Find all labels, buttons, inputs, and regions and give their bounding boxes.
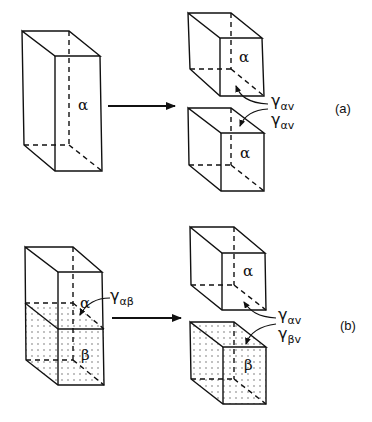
surface-energy-a-2: γαv <box>271 112 294 131</box>
phase-label-alpha-top: α <box>239 50 249 65</box>
phase-label-beta-split: β <box>244 358 253 373</box>
box-a-split-bottom <box>188 108 264 191</box>
panel-label-b: (b) <box>340 319 356 332</box>
interface-energy-ab: γαβ <box>110 288 134 307</box>
phase-label-alpha-bottom: α <box>240 146 250 161</box>
phase-label-beta-initial: β <box>81 348 90 363</box>
box-b-split-bottom <box>190 322 266 404</box>
phase-label-alpha-initial: α <box>78 98 88 113</box>
box-a-split-top <box>188 13 264 96</box>
phase-label-alpha-split-b: α <box>243 264 253 279</box>
box-b-split-top <box>190 227 266 310</box>
phase-label-alpha-initial-b: α <box>80 296 90 311</box>
gamma-subscript: αβ <box>119 295 133 308</box>
box-a-initial <box>22 31 102 171</box>
surface-energy-b-2: γβv <box>278 326 301 345</box>
panel-label-a: (a) <box>335 102 351 115</box>
gamma-subscript: βv <box>287 333 301 346</box>
diagram-canvas <box>0 0 372 422</box>
box-b-initial <box>25 247 104 385</box>
gamma-subscript: αv <box>280 119 294 132</box>
